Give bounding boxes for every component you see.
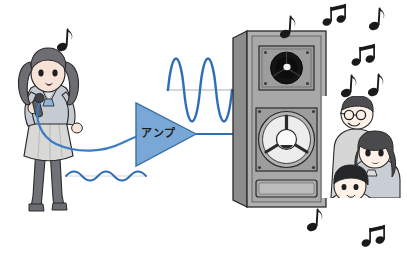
woofer — [256, 108, 317, 171]
loudspeaker-cabinet — [233, 31, 326, 207]
bass-port — [256, 180, 317, 197]
tweeter — [259, 46, 314, 90]
amplifier-label: アンプ — [141, 126, 176, 140]
illustration-canvas: アンプ — [0, 0, 407, 263]
